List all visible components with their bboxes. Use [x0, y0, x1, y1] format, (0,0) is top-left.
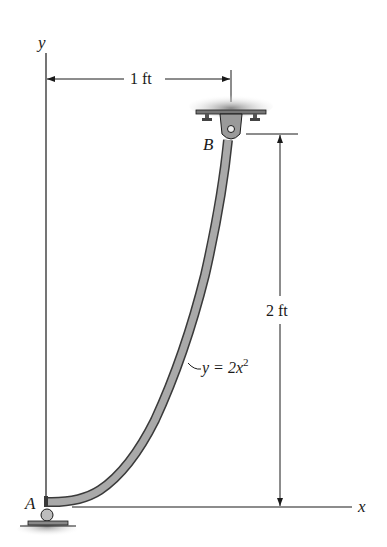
curve-equation-leader — [188, 363, 201, 369]
curved-beam — [44, 140, 228, 507]
vertical-dimension-label: 2 ft — [266, 302, 288, 319]
y-axis-label: y — [36, 33, 46, 52]
pin-support-b — [189, 95, 273, 139]
curve-equation-text: y = 2x — [200, 359, 243, 377]
point-b-label: B — [203, 135, 214, 154]
x-axis-label: x — [357, 497, 366, 516]
diagram-canvas: y x 1 ft 2 ft B — [0, 0, 387, 547]
vertical-dimension — [246, 134, 298, 506]
roller-support-a — [17, 509, 77, 538]
point-a-label: A — [24, 494, 36, 513]
horizontal-dimension-label: 1 ft — [130, 70, 152, 87]
curve-equation-exponent: 2 — [243, 356, 249, 368]
curve-equation-label: y = 2x2 — [200, 356, 249, 377]
